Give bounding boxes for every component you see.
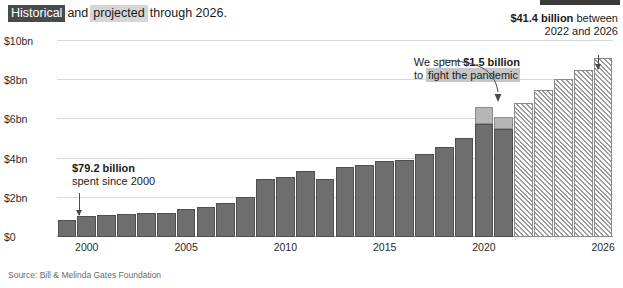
x-axis-tick-label: 2015 xyxy=(373,241,396,253)
bar-segment-historical xyxy=(494,129,513,237)
top-crop-fragment xyxy=(540,0,620,5)
bar-segment-historical xyxy=(157,213,176,238)
bar-segment-historical xyxy=(58,220,77,237)
chart-bar xyxy=(316,179,335,237)
title-highlight-projected: projected xyxy=(90,5,147,22)
title-word-and: and xyxy=(65,6,90,20)
annotation-projected-line2: 2022 and 2026 xyxy=(470,25,618,38)
annotation-historical-total: $79.2 billion spent since 2000 xyxy=(72,162,212,188)
chart-bar xyxy=(256,179,275,237)
bar-segment-historical xyxy=(117,214,136,237)
chart-bar xyxy=(355,165,374,237)
bar-segment-historical xyxy=(256,179,275,237)
chart-bar xyxy=(455,138,474,237)
annotation-projected-line1: $41.4 billion between xyxy=(470,12,618,25)
bar-segment-historical xyxy=(355,165,374,237)
x-axis-labels: 200020052010201520202026 xyxy=(57,239,613,257)
y-axis-tick-label: $4bn xyxy=(4,153,27,165)
bar-segment-historical xyxy=(316,179,335,237)
page-title: Historicalandprojectedthrough 2026. xyxy=(8,6,229,21)
annotation-projected-amount: $41.4 billion xyxy=(510,12,573,24)
chart-bar xyxy=(554,79,573,237)
bar-segment-historical xyxy=(137,213,156,237)
chart-bar xyxy=(58,220,77,237)
chart-bar xyxy=(494,117,513,237)
x-axis-tick-label: 2026 xyxy=(591,241,614,253)
bar-segment-historical xyxy=(276,177,295,237)
chart-bar xyxy=(435,147,454,237)
bar-segment-historical xyxy=(395,160,414,237)
chart-bar xyxy=(415,154,434,237)
chart-bar xyxy=(117,214,136,237)
x-axis-tick-label: 2000 xyxy=(75,241,98,253)
bar-segment-projected xyxy=(534,90,553,237)
bar-segment-historical xyxy=(296,171,315,237)
x-axis-tick-label: 2020 xyxy=(472,241,495,253)
bar-segment-historical xyxy=(216,203,235,237)
chart-bar xyxy=(514,103,533,237)
chart-bar xyxy=(375,161,394,237)
chart-bar xyxy=(395,160,414,237)
y-axis-tick-label: $8bn xyxy=(4,74,27,86)
bar-segment-projected xyxy=(594,58,613,237)
y-axis-tick-label: $10bn xyxy=(4,35,33,47)
x-axis-tick-label: 2010 xyxy=(274,241,297,253)
bar-segment-historical xyxy=(435,147,454,237)
bar-segment-projected xyxy=(574,70,593,237)
bar-segment-historical xyxy=(455,138,474,237)
annotation-projected-between: between xyxy=(573,12,618,24)
y-axis-tick-label: $2bn xyxy=(4,192,27,204)
bar-segment-pandemic xyxy=(475,107,494,125)
chart-bar xyxy=(77,216,96,237)
annotation-projected-arrow-icon xyxy=(598,55,599,69)
chart-bar xyxy=(336,167,355,237)
annotation-pandemic-to: to xyxy=(414,69,426,81)
annotation-historical-arrow-icon xyxy=(79,193,80,215)
source-caption: Source: Bill & Melinda Gates Foundation xyxy=(8,270,161,280)
chart-plot-area xyxy=(57,41,613,237)
gridline xyxy=(57,40,613,41)
annotation-projected-total: $41.4 billion between 2022 and 2026 xyxy=(470,12,618,38)
bar-segment-historical xyxy=(375,161,394,237)
chart-bar xyxy=(574,70,593,237)
chart-bar xyxy=(276,177,295,237)
chart-bar xyxy=(157,213,176,238)
chart-bar xyxy=(216,203,235,237)
bar-segment-historical xyxy=(197,207,216,237)
title-highlight-historical: Historical xyxy=(8,5,65,22)
bar-segment-historical xyxy=(236,197,255,237)
bar-segment-historical xyxy=(415,154,434,237)
title-tail: through 2026. xyxy=(148,6,229,20)
bar-segment-historical xyxy=(77,216,96,237)
y-axis-tick-label: $6bn xyxy=(4,113,27,125)
bar-segment-projected xyxy=(514,103,533,237)
chart-bar xyxy=(137,213,156,237)
chart-bar xyxy=(236,197,255,237)
chart-bar xyxy=(177,209,196,237)
annotation-historical-line2: spent since 2000 xyxy=(72,175,212,188)
bar-segment-pandemic xyxy=(494,117,513,129)
bar-segment-historical xyxy=(336,167,355,237)
bar-segment-projected xyxy=(554,79,573,237)
chart-bar xyxy=(97,215,116,237)
annotation-pandemic-leader-line-icon xyxy=(440,58,510,106)
chart-bar xyxy=(594,58,613,237)
chart-bar xyxy=(475,107,494,237)
x-axis-tick-label: 2005 xyxy=(174,241,197,253)
y-axis-labels: $0$2bn$4bn$6bn$8bn$10bn xyxy=(0,41,52,237)
chart-bar xyxy=(534,90,553,237)
chart-bar xyxy=(197,207,216,237)
bar-segment-historical xyxy=(475,124,494,237)
gridline xyxy=(57,79,613,80)
y-axis-tick-label: $0 xyxy=(4,231,16,243)
bar-segment-historical xyxy=(97,215,116,237)
chart-bar xyxy=(296,171,315,237)
bar-segment-historical xyxy=(177,209,196,237)
annotation-historical-line1: $79.2 billion xyxy=(72,162,212,175)
